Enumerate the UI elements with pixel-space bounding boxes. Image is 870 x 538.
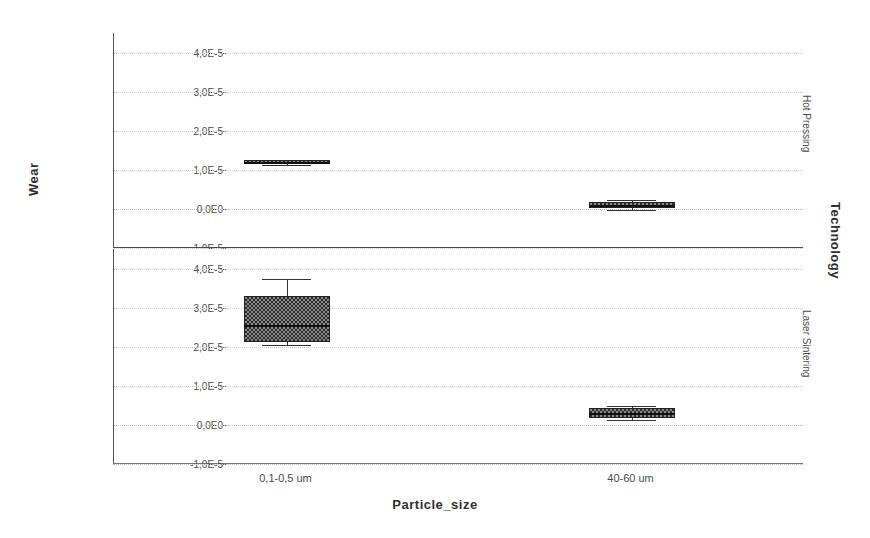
gridline: [114, 347, 803, 348]
whisker-cap-upper: [607, 406, 655, 407]
median-line: [589, 205, 675, 207]
median-line: [589, 413, 675, 415]
gridline: [114, 170, 803, 171]
whisker-cap-upper: [262, 279, 310, 280]
median-line: [244, 325, 330, 327]
gridline: [114, 92, 803, 93]
gridline: [114, 53, 803, 54]
y-axis-title: Wear: [26, 76, 41, 196]
panel-laser-sintering: -1,0E-50,0E01,0E-52,0E-53,0E-54,0E-5: [113, 249, 803, 464]
whisker-cap-lower: [607, 420, 655, 421]
gridline: [114, 425, 803, 426]
median-line: [244, 162, 330, 164]
facet-label-laser-sintering: Laser Sintering: [801, 310, 812, 377]
boxplot-box: [244, 249, 330, 463]
boxplot-box: [589, 33, 675, 247]
x-axis-title: Particle_size: [0, 497, 870, 512]
x-axis-line: [113, 464, 803, 465]
panel-hot-pressing: -1,0E-50,0E01,0E-52,0E-53,0E-54,0E-5: [113, 33, 803, 248]
boxplot-box: [244, 33, 330, 247]
gridline: [114, 269, 803, 270]
facet-label-hot-pressing: Hot Pressing: [801, 95, 812, 152]
x-category-label: 0,1-0,5 um: [259, 472, 312, 484]
whisker-cap-lower: [262, 345, 310, 346]
gridline: [114, 209, 803, 210]
boxplot-box: [589, 249, 675, 463]
x-category-label: 40-60 um: [607, 472, 653, 484]
gridline: [114, 131, 803, 132]
whisker-upper: [287, 279, 288, 295]
box-iqr: [244, 296, 330, 342]
y-tick-labels-hot: -1,0E-50,0E01,0E-52,0E-53,0E-54,0E-5: [149, 33, 223, 247]
gridline: [114, 386, 803, 387]
facet-variable-title: Technology: [828, 202, 843, 332]
whisker-cap-lower: [262, 165, 310, 166]
boxplot-chart: Wear Particle_size Technology -1,0E-50,0…: [0, 0, 870, 538]
gridline: [114, 308, 803, 309]
whisker-cap-lower: [607, 210, 655, 211]
y-tick-labels-laser: -1,0E-50,0E01,0E-52,0E-53,0E-54,0E-5: [149, 249, 223, 463]
